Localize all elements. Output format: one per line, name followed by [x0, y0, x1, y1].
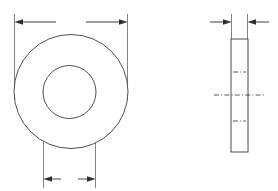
- washer-drawing-svg: Flat washer — two-view engineering drawi…: [0, 0, 278, 191]
- arrowhead-thickness-right-icon: [248, 19, 257, 25]
- thickness-dimension: [210, 19, 269, 25]
- side-view: [210, 14, 269, 152]
- arrowhead-od-left-icon: [15, 19, 24, 25]
- arrowhead-id-right-icon: [87, 176, 96, 182]
- washer-side-profile-rect: [231, 39, 248, 152]
- arrowhead-thickness-left-icon: [223, 19, 232, 25]
- outside-diameter-dimension: [15, 19, 128, 25]
- washer-inner-hole-circle: [43, 66, 96, 119]
- arrowhead-id-left-icon: [44, 176, 53, 182]
- technical-drawing-canvas: Flat washer — two-view engineering drawi…: [0, 0, 278, 191]
- arrowhead-od-right-icon: [119, 19, 128, 25]
- inside-diameter-dimension: [44, 176, 96, 182]
- front-view: [14, 14, 128, 188]
